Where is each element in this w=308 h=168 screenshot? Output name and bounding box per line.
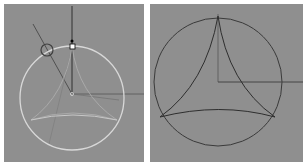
gizmo-handle-icon[interactable] <box>70 44 75 49</box>
construction-line <box>72 94 119 100</box>
construction-drawing <box>4 4 144 162</box>
viewport-right[interactable] <box>150 4 303 162</box>
concave-triangle <box>160 16 275 117</box>
result-drawing <box>150 4 303 162</box>
construction-line <box>33 24 72 94</box>
arc <box>31 115 117 120</box>
viewport-left[interactable] <box>4 4 144 162</box>
pivot-icon <box>71 40 74 43</box>
